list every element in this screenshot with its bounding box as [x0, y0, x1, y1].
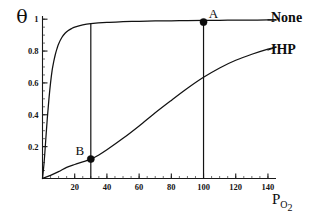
x-axis-title-subscript2: 2 [288, 202, 293, 213]
x-tick-label: 20 [70, 182, 79, 192]
x-tick-label: 120 [229, 182, 242, 192]
y-tick-label: 0.8 [28, 46, 39, 56]
x-tick-label: 40 [103, 182, 112, 192]
x-axis-major-ticks [75, 174, 268, 179]
oxygen-binding-chart: 20406080100120140 0.20.40.60.81 AB θ PO2… [0, 0, 316, 217]
data-point-label-A: A [209, 6, 219, 21]
reference-lines [91, 22, 204, 178]
y-tick-label: 0.4 [28, 110, 39, 120]
x-tick-label: 140 [262, 182, 275, 192]
y-tick-label: 0.6 [28, 78, 39, 88]
x-axis-title-subscript: O [280, 199, 287, 210]
x-axis-title: PO2 [272, 191, 293, 213]
y-tick-label: 0.2 [28, 142, 39, 152]
series-curve-ihp [43, 47, 277, 178]
data-point-markers [87, 18, 207, 162]
data-point-label-B: B [75, 143, 84, 158]
x-axis-tick-labels: 20406080100120140 [70, 182, 274, 192]
x-tick-label: 100 [197, 182, 210, 192]
x-axis-title-main: P [272, 191, 280, 207]
x-tick-label: 60 [135, 182, 144, 192]
y-tick-label: 1 [34, 14, 38, 24]
series-label-ihp: IHP [271, 42, 296, 57]
y-axis-title: θ [16, 5, 27, 27]
data-point-marker-A [200, 18, 207, 25]
y-axis-tick-labels: 0.20.40.60.81 [28, 14, 39, 151]
series-label-none: None [271, 10, 302, 25]
data-point-marker-B [87, 155, 94, 162]
x-tick-label: 80 [167, 182, 176, 192]
chart-svg: 20406080100120140 0.20.40.60.81 AB θ PO2… [0, 0, 316, 217]
